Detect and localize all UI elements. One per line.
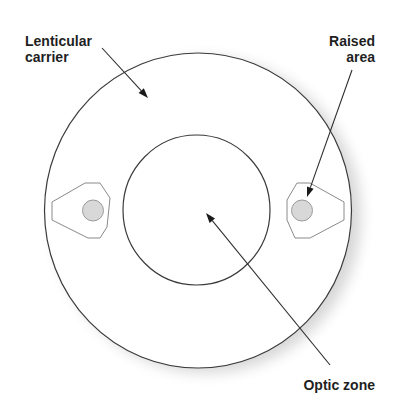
label-lenticular-carrier-line1: Lenticular — [25, 33, 92, 49]
label-lenticular-carrier-line2: carrier — [25, 49, 69, 65]
raised-area-pointer — [307, 70, 352, 197]
raised-area-left — [52, 183, 110, 238]
label-raised-area-line2: area — [346, 49, 375, 65]
lenticular-carrier-leader-line — [102, 48, 141, 91]
label-raised-area-line1: Raised — [329, 33, 375, 49]
lenticular-carrier-pointer — [102, 48, 148, 98]
optic-zone-leader-line — [212, 221, 330, 365]
raised-dot-right — [292, 200, 313, 221]
label-optic-zone: Optic zone — [303, 377, 375, 393]
lens-diagram: Lenticular carrier Raised area Optic zon… — [0, 0, 398, 412]
raised-dot-left — [83, 200, 104, 221]
optic-zone-outline — [123, 135, 270, 285]
raised-area-right — [287, 183, 344, 238]
arrowhead-icon — [206, 213, 215, 223]
